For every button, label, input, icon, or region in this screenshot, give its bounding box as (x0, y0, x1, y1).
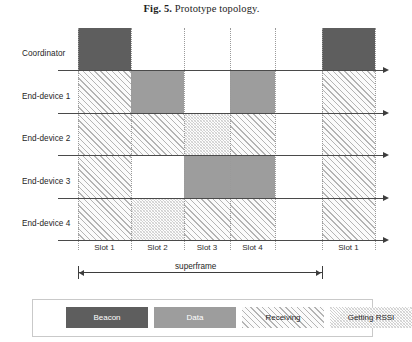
legend-item-beacon: Beacon (66, 307, 148, 328)
cell-end-device-4-gap-none (275, 198, 322, 240)
cell-end-device-1-slot1-receiving (78, 70, 131, 113)
row-label-end-device-1: End-device 1 (22, 92, 70, 101)
superframe-arrow-left-icon (79, 270, 84, 276)
superframe-arrow-right-icon (316, 270, 321, 276)
cell-end-device-2-slot1-receiving (78, 113, 131, 155)
row-label-end-device-4: End-device 4 (22, 219, 70, 228)
timeline-arrow-end-device-2-icon (383, 152, 389, 158)
gridline-nextslot1-end (375, 28, 376, 250)
cell-coordinator-slot1-beacon (78, 28, 131, 70)
cell-end-device-4-nextslot1-receiving (322, 198, 375, 240)
slot-label-2: Slot 2 (131, 243, 184, 252)
row-label-coordinator: Coordinator (22, 49, 65, 58)
cell-end-device-4-slot3-receiving (184, 198, 230, 240)
cell-coordinator-slot4-none (230, 28, 275, 70)
superframe-right-cap (322, 266, 323, 279)
timeline-end-device-4 (58, 240, 383, 241)
timeline-arrow-end-device-1-icon (383, 110, 389, 116)
timeline-arrow-end-device-4-icon (383, 237, 389, 243)
gridline-slot4-end (275, 28, 276, 250)
legend-label-beacon: Beacon (66, 307, 148, 328)
legend-label-data: Data (154, 307, 236, 328)
cell-end-device-3-gap-none (275, 155, 322, 198)
cell-end-device-1-slot2-data (131, 70, 184, 113)
timeline-arrow-coordinator-icon (383, 67, 389, 73)
cell-end-device-3-slot1-receiving (78, 155, 131, 198)
legend-item-getting-rssi: Getting RSSI (330, 307, 412, 328)
superframe-label: superframe (171, 262, 220, 271)
superframe-span-line (78, 272, 322, 273)
timeline-coordinator (58, 70, 383, 71)
legend-item-receiving: Receiving (242, 307, 324, 328)
timeline-end-device-2 (58, 155, 383, 156)
slot-label-3: Slot 3 (184, 243, 230, 252)
cell-end-device-1-slot3-none (184, 70, 230, 113)
legend-label-receiving: Receiving (242, 307, 324, 328)
cell-end-device-2-slot4-receiving (230, 113, 275, 155)
gridline-nextslot1-start (322, 28, 323, 250)
cell-end-device-2-gap-none (275, 113, 322, 155)
cell-end-device-1-gap-none (275, 70, 322, 113)
timeline-end-device-1 (58, 113, 383, 114)
row-label-end-device-3: End-device 3 (22, 177, 70, 186)
cell-end-device-4-slot4-receiving (230, 198, 275, 240)
gridline-slot3-start (184, 28, 185, 250)
legend-label-getting-rssi: Getting RSSI (330, 307, 412, 328)
cell-end-device-4-slot1-receiving (78, 198, 131, 240)
cell-end-device-1-nextslot1-receiving (322, 70, 375, 113)
cell-end-device-3-slot4-data (230, 155, 275, 198)
cell-coordinator-gap-none (275, 28, 322, 70)
cell-coordinator-slot2-none (131, 28, 184, 70)
gridline-slot4-start (230, 28, 231, 250)
cell-end-device-2-nextslot1-receiving (322, 113, 375, 155)
cell-end-device-2-slot3-getting-rssi (184, 113, 230, 155)
cell-end-device-3-slot2-none (131, 155, 184, 198)
slot-label-next-1: Slot 1 (322, 243, 375, 252)
cell-coordinator-nextslot1-beacon (322, 28, 375, 70)
cell-coordinator-slot3-none (184, 28, 230, 70)
cell-end-device-4-slot2-getting-rssi (131, 198, 184, 240)
cell-end-device-2-slot2-receiving (131, 113, 184, 155)
slot-label-4: Slot 4 (230, 243, 275, 252)
cell-end-device-1-slot4-data (230, 70, 275, 113)
row-label-end-device-2: End-device 2 (22, 134, 70, 143)
timeline-arrow-end-device-3-icon (383, 195, 389, 201)
legend-item-data: Data (154, 307, 236, 328)
cell-end-device-3-nextslot1-receiving (322, 155, 375, 198)
timeline-end-device-3 (58, 198, 383, 199)
legend: Beacon Data Receiving Getting RSSI (32, 299, 373, 337)
slot-label-1: Slot 1 (78, 243, 131, 252)
gridline-slot1-start (78, 28, 79, 250)
gridline-slot2-start (131, 28, 132, 250)
cell-end-device-3-slot3-data (184, 155, 230, 198)
